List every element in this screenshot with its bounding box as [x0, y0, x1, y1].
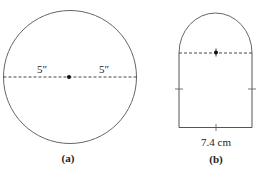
- figure-canvas: 5″ 5″ (a) 7.4 cm (b): [0, 0, 258, 170]
- left-radius-label: 5″: [37, 63, 47, 75]
- figure-a-caption: (a): [62, 152, 75, 164]
- figure-b-drawing: [175, 13, 256, 131]
- semicircle-arc: [179, 13, 252, 53]
- rectangle-outline: [179, 53, 252, 128]
- center-point: [67, 75, 71, 79]
- figure-b-caption: (b): [209, 153, 222, 165]
- right-radius-label: 5″: [99, 63, 109, 75]
- figure-a-drawing: [4, 11, 137, 144]
- width-label: 7.4 cm: [201, 136, 231, 148]
